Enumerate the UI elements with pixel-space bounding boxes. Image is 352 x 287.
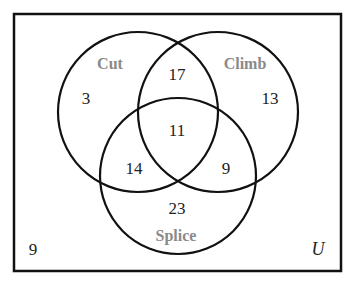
venn-diagram: Cut Climb Splice 3 13 17 11 14 9 23 9 U [0,0,352,287]
region-climb-only: 13 [262,89,279,108]
region-splice-only: 23 [169,199,186,218]
region-cut-only: 3 [82,89,91,108]
splice-label: Splice [156,227,197,245]
region-cut-climb: 17 [169,65,187,84]
climb-label: Climb [224,55,267,72]
region-all-three: 11 [169,121,185,140]
region-outside: 9 [29,240,38,259]
region-climb-splice: 9 [222,159,231,178]
universe-label: U [312,239,326,259]
region-cut-splice: 14 [126,159,144,178]
cut-label: Cut [97,55,123,72]
